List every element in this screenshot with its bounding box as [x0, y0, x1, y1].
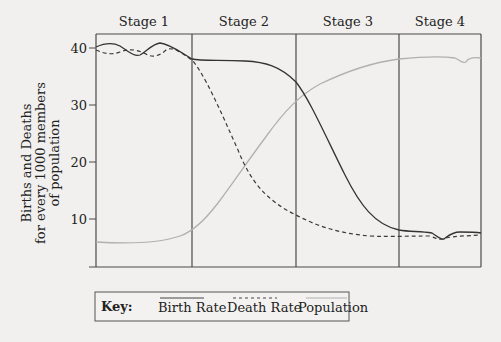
- population-line: [96, 57, 481, 243]
- y-tick-20: 20: [70, 155, 87, 170]
- birth-rate-line: [96, 43, 481, 239]
- stage-label-2: Stage 2: [219, 14, 269, 29]
- y-axis-label: Births and Deaths for every 1000 members…: [19, 82, 62, 244]
- death-rate-line: [96, 49, 481, 240]
- svg-text:for every 1000 members: for every 1000 members: [33, 82, 48, 244]
- legend-title: Key:: [101, 299, 133, 314]
- legend-birth-rate-label: Birth Rate: [158, 300, 227, 315]
- demographic-transition-chart: Stage 1 Stage 2 Stage 3 Stage 4 40 30 20…: [0, 0, 501, 342]
- legend: Key: Birth Rate Death Rate Population: [95, 292, 369, 321]
- stage-label-1: Stage 1: [119, 14, 169, 29]
- svg-text:of population: of population: [47, 119, 62, 207]
- legend-death-rate-label: Death Rate: [227, 300, 302, 315]
- stage-label-4: Stage 4: [415, 14, 465, 29]
- stage-label-3: Stage 3: [323, 14, 373, 29]
- svg-text:Births and Deaths: Births and Deaths: [19, 103, 34, 222]
- y-tick-40: 40: [70, 41, 87, 56]
- y-axis: [89, 48, 96, 219]
- y-tick-30: 30: [70, 98, 87, 113]
- legend-population-label: Population: [298, 300, 369, 315]
- y-tick-10: 10: [70, 212, 87, 227]
